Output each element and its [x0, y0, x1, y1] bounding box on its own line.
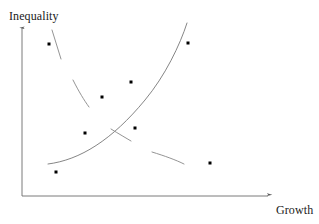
trend-curve-declining-trend-seg-3	[111, 129, 131, 141]
trend-curve-declining-trend-seg-4	[152, 152, 184, 164]
data-points-group	[48, 42, 212, 174]
data-point	[101, 96, 104, 99]
data-point	[48, 43, 51, 46]
data-point	[84, 132, 87, 135]
chart-canvas	[0, 0, 319, 224]
data-point	[130, 81, 133, 84]
data-point	[55, 171, 58, 174]
trend-curve-declining-trend-seg-1	[52, 30, 61, 59]
scatter-chart-figure: Inequality Growth	[0, 0, 319, 224]
trend-curve-rising-trend	[48, 23, 187, 164]
trend-curve-declining-trend-seg-2	[73, 80, 89, 107]
x-axis-label: Growth	[276, 204, 313, 216]
data-point	[209, 162, 212, 165]
data-point	[187, 42, 190, 45]
data-point	[134, 127, 137, 130]
trend-curves-group	[48, 23, 187, 164]
y-axis-label: Inequality	[9, 10, 59, 22]
